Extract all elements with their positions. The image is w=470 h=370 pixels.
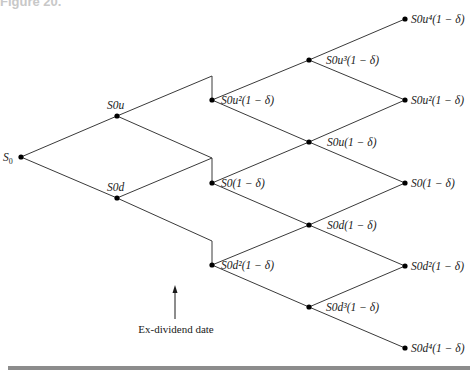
label-c4-2: S0u²(1 − δ) [411,94,464,107]
node-c4-5 [402,345,407,350]
label-c3-1: S0u³(1 − δ) [326,54,379,67]
label-u1: S0u [107,99,125,111]
node-c3-1 [306,57,311,62]
tree-labels: S0 S0u S0d S0u²(1 − δ) S0(1 − δ) S0d²(1 … [3,13,465,355]
label-c3-3: S0d(1 − δ) [327,219,377,232]
node-u1 [114,113,119,118]
label-c4-1: S0u⁴(1 − δ) [411,13,465,26]
node-c2-mid [209,180,214,185]
label-root: S0 [3,151,13,166]
binomial-tree-diagram: S0 S0u S0d S0u²(1 − δ) S0(1 − δ) S0d²(1 … [0,0,470,370]
label-c4-4: S0d²(1 − δ) [411,260,464,273]
label-c2-top: S0u²(1 − δ) [221,94,274,107]
label-c4-3: S0(1 − δ) [411,177,455,190]
node-c4-3 [402,180,407,185]
node-c3-4 [306,304,311,309]
node-c4-1 [402,16,407,21]
label-c2-bot: S0d²(1 − δ) [221,259,274,272]
node-d1 [114,195,119,200]
node-c4-2 [402,97,407,102]
ex-dividend-arrow-icon [173,285,178,319]
node-c2-top [209,97,214,102]
label-c3-2: S0u(1 − δ) [327,136,377,149]
node-c4-4 [402,263,407,268]
label-d1: S0d [107,181,125,193]
label-c2-mid: S0(1 − δ) [221,177,265,190]
node-c2-bot [209,262,214,267]
node-c3-2 [306,139,311,144]
ex-dividend-label: Ex-dividend date [138,323,214,335]
bottom-rule [8,366,470,370]
node-c3-3 [306,222,311,227]
node-root [18,154,23,159]
label-c4-5: S0d⁴(1 − δ) [411,342,465,355]
label-c3-4: S0d³(1 − δ) [326,301,379,314]
